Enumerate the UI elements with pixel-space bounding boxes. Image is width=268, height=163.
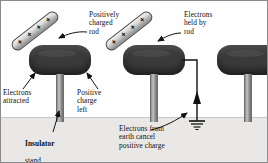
earth-wire [182, 60, 197, 121]
leader-insulator-stand [53, 111, 59, 132]
label-insulator-stand: Insulator stand [25, 132, 85, 163]
label-electrons-held-by-rod: Electrons held by rod [184, 11, 232, 36]
leader-positively-charged-rod [59, 32, 87, 38]
leader-electrons-held-by-rod [158, 33, 181, 41]
label-positive-charge-left: Positive charge left [77, 89, 117, 114]
leader-electrons-attracted [23, 73, 35, 89]
label-positively-charged-rod: Positively charged rod [89, 11, 135, 36]
induction-diagram: + + + + + + + + [0, 0, 268, 163]
leader-positive-charge-left [87, 73, 98, 89]
label-electrons-attracted: Electrons attracted [3, 89, 47, 106]
label-electrons-from-earth: Electrons from earth cancel positive cha… [119, 125, 199, 150]
insulator-stand-word: stand [25, 156, 41, 163]
current-direction-arrow [193, 91, 201, 104]
insulator-bold-word: Insulator [25, 139, 55, 148]
